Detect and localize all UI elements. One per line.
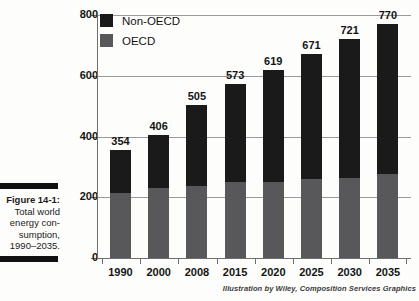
bar-2025 bbox=[301, 54, 322, 258]
bar-segment-non-oecd-2035 bbox=[377, 24, 398, 174]
bar-segment-non-oecd-2020 bbox=[263, 70, 284, 182]
x-tick-mark-end bbox=[406, 259, 407, 264]
bar-total-label-2008: 505 bbox=[175, 90, 219, 102]
bar-total-label-2000: 406 bbox=[137, 120, 181, 132]
bar-total-label-1990: 354 bbox=[99, 135, 143, 147]
caption-line-3: sumption, bbox=[0, 229, 60, 241]
bar-segment-oecd-1990 bbox=[110, 193, 131, 258]
legend-swatch-non-oecd bbox=[100, 14, 113, 27]
bar-segment-oecd-2000 bbox=[148, 188, 169, 258]
y-tick-label-800: 800 bbox=[58, 8, 98, 20]
bar-chart: 0200400600800 354406505573619671721770 1… bbox=[62, 0, 419, 301]
illustration-credit: Illustration by Wiley, Composition Servi… bbox=[223, 284, 416, 293]
bar-segment-non-oecd-2015 bbox=[225, 84, 246, 182]
figure-number-label: Figure 14-1: bbox=[0, 194, 60, 206]
figure-caption-text: Figure 14-1: Total world energy con- sum… bbox=[0, 194, 62, 252]
x-tick-mark-2035 bbox=[369, 259, 370, 264]
bar-segment-oecd-2008 bbox=[186, 186, 207, 258]
bar-2030 bbox=[339, 39, 360, 258]
bar-segment-non-oecd-2030 bbox=[339, 39, 360, 178]
y-tick-label-600: 600 bbox=[58, 69, 98, 81]
figure-page: Figure 14-1: Total world energy con- sum… bbox=[0, 0, 419, 301]
caption-line-1: Total world bbox=[0, 206, 60, 218]
figure-caption-block: Figure 14-1: Total world energy con- sum… bbox=[0, 183, 62, 262]
x-tick-label-2035: 2035 bbox=[365, 266, 411, 278]
bar-total-label-2025: 671 bbox=[290, 39, 334, 51]
x-tick-mark-2025 bbox=[293, 259, 294, 264]
bar-2035 bbox=[377, 24, 398, 258]
bar-2020 bbox=[263, 70, 284, 258]
y-tick-label-200: 200 bbox=[58, 190, 98, 202]
bar-1990 bbox=[110, 150, 131, 258]
legend-label-oecd: OECD bbox=[122, 35, 155, 47]
x-tick-mark-2020 bbox=[255, 259, 256, 264]
y-tick-label-400: 400 bbox=[58, 130, 98, 142]
legend-item-oecd: OECD bbox=[100, 34, 180, 47]
x-tick-mark-2000 bbox=[140, 259, 141, 264]
bar-2000 bbox=[148, 135, 169, 258]
gridline-200 bbox=[98, 197, 411, 198]
bar-total-label-2020: 619 bbox=[251, 55, 295, 67]
bar-segment-oecd-2035 bbox=[377, 174, 398, 258]
caption-line-2: energy con- bbox=[0, 217, 60, 229]
legend-label-non-oecd: Non-OECD bbox=[122, 15, 180, 27]
bar-segment-non-oecd-1990 bbox=[110, 150, 131, 193]
bar-segment-oecd-2015 bbox=[225, 182, 246, 258]
caption-rule-top bbox=[0, 183, 58, 189]
gridline-400 bbox=[98, 137, 411, 138]
bar-2015 bbox=[225, 84, 246, 258]
bar-total-label-2030: 721 bbox=[328, 24, 372, 36]
bar-segment-oecd-2030 bbox=[339, 178, 360, 258]
x-tick-mark-2008 bbox=[178, 259, 179, 264]
x-tick-mark-2030 bbox=[331, 259, 332, 264]
y-tick-label-0: 0 bbox=[58, 251, 98, 263]
bar-total-label-2015: 573 bbox=[213, 69, 257, 81]
caption-line-4: 1990–2035. bbox=[0, 240, 60, 252]
bar-segment-oecd-2025 bbox=[301, 179, 322, 258]
chart-legend: Non-OECD OECD bbox=[100, 14, 180, 54]
bar-segment-non-oecd-2000 bbox=[148, 135, 169, 188]
x-tick-mark-2015 bbox=[217, 259, 218, 264]
bar-segment-non-oecd-2025 bbox=[301, 54, 322, 179]
bar-total-label-2035: 770 bbox=[366, 9, 410, 21]
legend-swatch-oecd bbox=[100, 34, 113, 47]
legend-item-non-oecd: Non-OECD bbox=[100, 14, 180, 27]
x-tick-mark-1990 bbox=[102, 259, 103, 264]
bar-segment-non-oecd-2008 bbox=[186, 105, 207, 186]
bar-2008 bbox=[186, 105, 207, 258]
bar-segment-oecd-2020 bbox=[263, 182, 284, 258]
caption-rule-bottom bbox=[0, 256, 58, 262]
